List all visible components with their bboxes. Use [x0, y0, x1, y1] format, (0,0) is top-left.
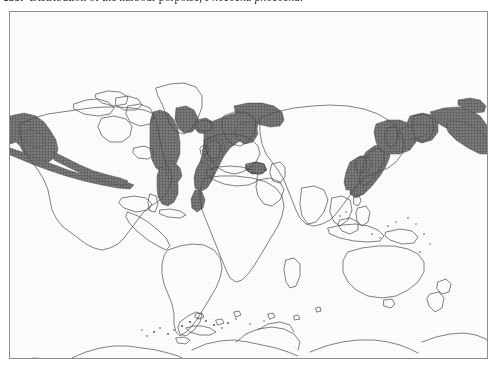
figure-species-name: Phocoena phocoena.: [205, 0, 303, 3]
figure-caption-line: 135.Distribution of the harbour porpoise…: [3, 0, 303, 4]
figure-caption: 135.Distribution of the harbour porpoise…: [0, 0, 498, 9]
figure-number: 135.: [3, 0, 24, 3]
map-frame: [9, 11, 488, 359]
ocean-background: [10, 12, 488, 359]
world-distribution-map: [10, 12, 488, 359]
figure-caption-body: Distribution of the harbour porpoise,: [30, 0, 203, 3]
figure-root: 135.Distribution of the harbour porpoise…: [0, 0, 498, 373]
